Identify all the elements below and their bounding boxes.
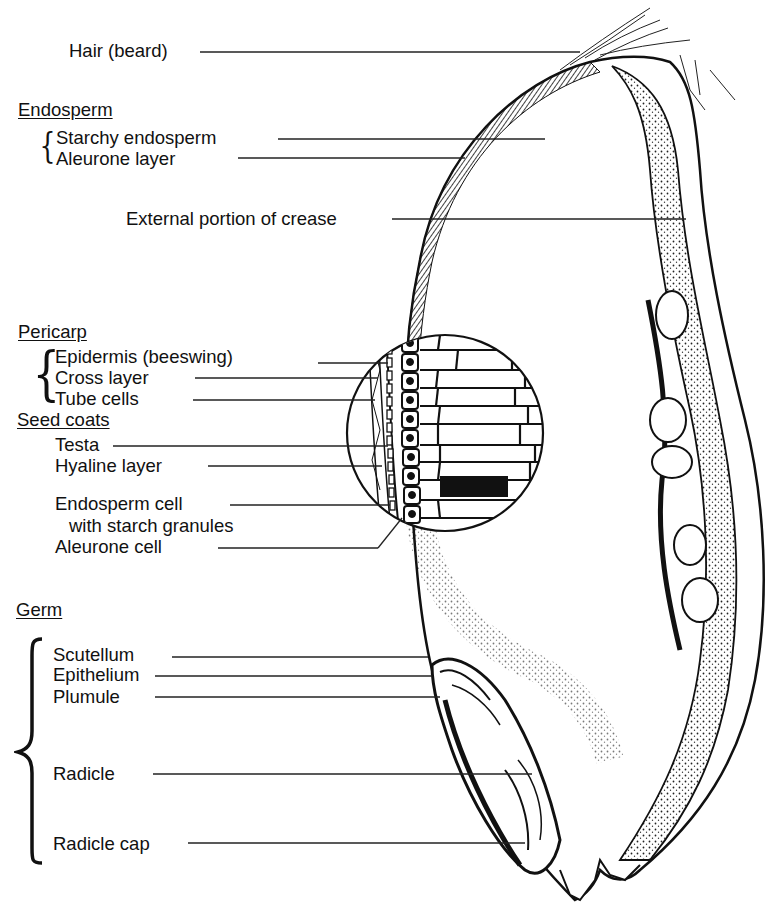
heading-endosperm: Endosperm (18, 101, 113, 120)
label-radicle: Radicle (53, 765, 115, 784)
label-crease: External portion of crease (126, 210, 337, 229)
label-epithelium: Epithelium (53, 666, 139, 685)
label-tube-cells: Tube cells (55, 390, 139, 409)
label-cross-layer: Cross layer (55, 369, 149, 388)
label-endosperm-cell-line2: with starch granules (69, 517, 234, 536)
label-scutellum: Scutellum (53, 646, 134, 665)
brace-endosperm: { (39, 128, 55, 164)
label-endosperm-cell-line1: Endosperm cell (55, 495, 183, 514)
brace-germ (14, 636, 44, 866)
heading-seed-coats: Seed coats (17, 411, 110, 430)
label-testa: Testa (55, 436, 99, 455)
label-radicle-cap: Radicle cap (53, 835, 150, 854)
label-hair: Hair (beard) (69, 42, 168, 61)
heading-pericarp: Pericarp (18, 323, 87, 342)
heading-germ: Germ (16, 601, 62, 620)
label-hyaline-layer: Hyaline layer (55, 457, 162, 476)
label-starchy-endosperm: Starchy endosperm (56, 129, 216, 148)
label-epidermis: Epidermis (beeswing) (55, 348, 233, 367)
label-aleurone-cell: Aleurone cell (55, 538, 162, 557)
label-aleurone-layer: Aleurone layer (56, 150, 175, 169)
label-plumule: Plumule (53, 688, 120, 707)
